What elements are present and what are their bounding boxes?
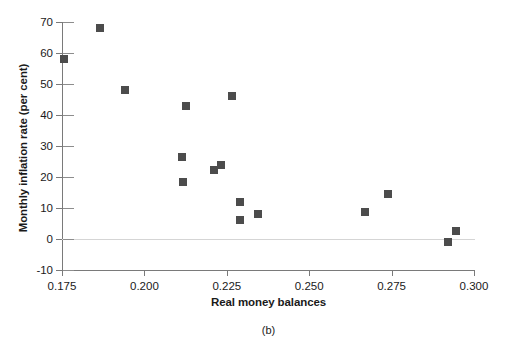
y-axis-label: Monthly inflation rate (per cent)	[12, 18, 34, 278]
scatter-point	[444, 238, 452, 246]
y-tick-mark	[56, 146, 62, 147]
x-tick-label: 0.275	[377, 280, 406, 292]
y-tick-label: 30	[40, 140, 53, 152]
y-tick-label: 10	[40, 202, 53, 214]
y-tick-mark	[56, 22, 62, 23]
y-tick-label: 40	[40, 109, 53, 121]
scatter-point	[228, 92, 236, 100]
x-tick-label: 0.300	[460, 280, 489, 292]
x-tick-mark	[144, 270, 145, 276]
scatter-point	[452, 227, 460, 235]
zero-reference-line	[61, 239, 475, 240]
y-tick-mark-inner	[63, 22, 74, 23]
x-tick-label: 0.200	[130, 280, 159, 292]
scatter-point	[254, 210, 262, 218]
x-tick-mark	[392, 270, 393, 276]
y-tick-mark-inner	[63, 146, 74, 147]
y-tick-mark-inner	[63, 53, 74, 54]
scatter-point	[236, 216, 244, 224]
x-tick-mark	[62, 270, 63, 276]
y-tick-mark-inner	[63, 177, 74, 178]
panel-caption: (b)	[62, 324, 475, 336]
x-tick-label: 0.225	[212, 280, 241, 292]
x-tick-mark	[309, 270, 310, 276]
scatter-point	[217, 161, 225, 169]
y-tick-label: 50	[40, 78, 53, 90]
scatter-point	[178, 153, 186, 161]
scatter-point	[179, 178, 187, 186]
x-tick-label: 0.250	[295, 280, 324, 292]
x-tick-mark	[474, 270, 475, 276]
y-tick-label: 0	[47, 233, 53, 245]
y-tick-mark-inner	[63, 270, 74, 271]
y-tick-mark	[56, 208, 62, 209]
x-axis-line	[62, 270, 475, 271]
scatter-plot-figure: Monthly inflation rate (per cent) -10010…	[0, 0, 505, 357]
plot-area: -10010203040506070 0.1750.2000.2250.2500…	[62, 22, 474, 270]
scatter-point	[182, 102, 190, 110]
scatter-point	[384, 190, 392, 198]
y-tick-mark	[56, 115, 62, 116]
scatter-point	[361, 208, 369, 216]
y-tick-label: -10	[36, 264, 53, 276]
y-tick-label: 20	[40, 171, 53, 183]
x-tick-mark	[227, 270, 228, 276]
y-tick-mark	[56, 239, 62, 240]
y-tick-mark-inner	[63, 115, 74, 116]
y-tick-mark-inner	[63, 208, 74, 209]
x-tick-label: 0.175	[48, 280, 77, 292]
scatter-point	[121, 86, 129, 94]
y-tick-label: 60	[40, 47, 53, 59]
y-tick-mark	[56, 53, 62, 54]
scatter-point	[236, 198, 244, 206]
scatter-point	[96, 24, 104, 32]
x-axis-label: Real money balances	[62, 296, 475, 308]
y-tick-label: 70	[40, 16, 53, 28]
scatter-point	[60, 55, 68, 63]
y-tick-mark	[56, 84, 62, 85]
y-tick-mark-inner	[63, 239, 74, 240]
y-tick-mark-inner	[63, 84, 74, 85]
y-tick-mark	[56, 177, 62, 178]
